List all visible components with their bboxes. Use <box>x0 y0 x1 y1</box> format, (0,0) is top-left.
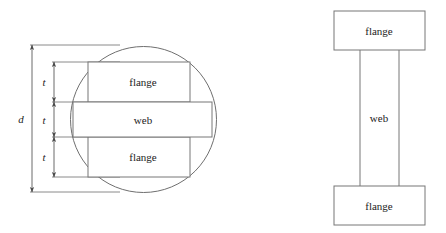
dimension-web-thickness: t <box>42 102 54 137</box>
dimension-label-t-bottom: t <box>42 151 46 163</box>
figure-root: d t t t flange web flange <box>0 0 446 233</box>
dimension-bottom-flange-thickness: t <box>42 137 54 177</box>
dimension-label-t-top: t <box>42 76 46 88</box>
dimension-top-flange-thickness: t <box>42 62 54 102</box>
right-bottom-flange-label: flange <box>365 200 393 212</box>
left-top-flange-label: flange <box>129 76 157 88</box>
right-top-flange-label: flange <box>365 25 393 37</box>
dimension-label-t-web: t <box>42 114 46 126</box>
panel-i-beam-in-circle: d t t t flange web flange <box>18 45 216 193</box>
right-web-label: web <box>370 112 389 124</box>
left-bottom-flange-label: flange <box>129 151 157 163</box>
left-web-label: web <box>134 114 153 126</box>
dimension-overall-depth: d <box>18 45 32 192</box>
engineering-diagram-canvas: d t t t flange web flange <box>0 0 446 233</box>
dimension-label-d: d <box>18 113 24 125</box>
panel-i-beam-profile: flange web flange <box>334 11 425 225</box>
